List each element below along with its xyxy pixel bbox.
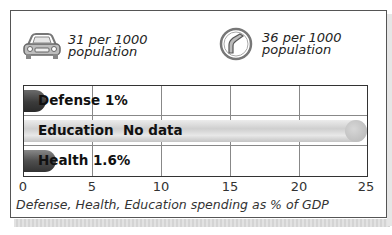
x-tick-15: 15 [222, 179, 239, 194]
bar-label-health: Health 1.6% [38, 152, 130, 168]
x-tick-10: 10 [153, 179, 170, 194]
x-tick-0: 0 [19, 179, 27, 194]
bar-label-education: Education No data [38, 122, 183, 138]
x-tick-20: 20 [291, 179, 308, 194]
stat-cars-text: 31 per 1000 population [68, 34, 148, 58]
stat-phones-text: 36 per 1000 population [262, 32, 342, 56]
car-icon [22, 28, 62, 64]
row-divider-1 [24, 115, 367, 116]
x-tick-5: 5 [88, 179, 96, 194]
stat-phones: 36 per 1000 population [216, 26, 342, 62]
stat-cars: 31 per 1000 population [22, 28, 148, 64]
frame-shadow-right [387, 14, 392, 226]
chart-caption: Defense, Health, Education spending as %… [16, 197, 329, 212]
bar-chart-plot-area: Defense 1% Education No data Health 1.6% [23, 85, 368, 177]
stat-phones-unit: population [262, 42, 331, 57]
phone-handset-icon [216, 26, 256, 62]
frame-shadow-bottom [14, 219, 390, 227]
row-divider-2 [24, 145, 367, 146]
bar-label-defense: Defense 1% [38, 92, 128, 108]
stat-cars-unit: population [68, 44, 137, 59]
x-tick-25: 25 [358, 179, 375, 194]
